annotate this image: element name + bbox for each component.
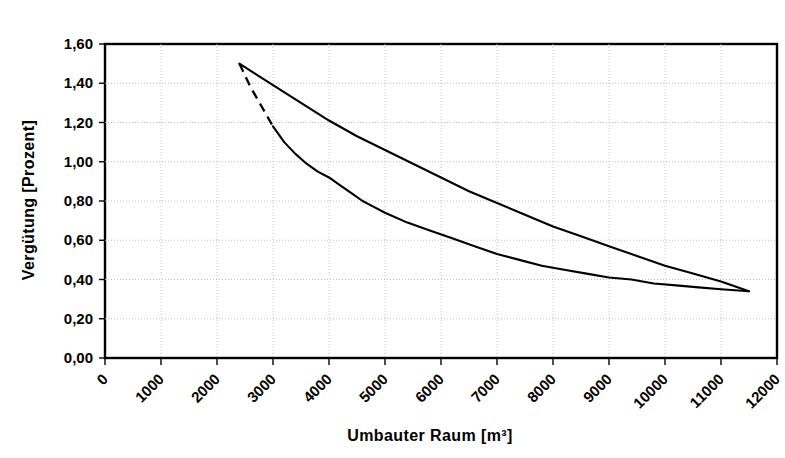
chart-container: 0,000,200,400,600,801,001,201,401,60 010… bbox=[0, 0, 785, 458]
x-tick-label: 8000 bbox=[524, 370, 560, 406]
x-axis-title: Umbauter Raum [m³] bbox=[347, 427, 512, 444]
y-axis-title: Vergütung [Prozent] bbox=[20, 120, 37, 280]
x-tick-label: 12000 bbox=[742, 370, 784, 412]
x-tick-label: 7000 bbox=[468, 370, 504, 406]
y-tick-label: 1,60 bbox=[64, 35, 93, 52]
y-tick-label: 1,20 bbox=[64, 114, 93, 131]
y-tick-label: 1,40 bbox=[64, 74, 93, 91]
x-tick-label: 3000 bbox=[244, 370, 280, 406]
x-tick-label: 2000 bbox=[188, 370, 224, 406]
x-axis-tick-labels: 0100020003000400050006000700080009000100… bbox=[93, 370, 783, 412]
x-tick-label: 11000 bbox=[686, 370, 727, 411]
y-tick-label: 0,40 bbox=[64, 271, 93, 288]
y-tick-label: 0,60 bbox=[64, 231, 93, 248]
x-tick-label: 9000 bbox=[580, 370, 616, 406]
x-tick-label: 1000 bbox=[132, 370, 168, 406]
y-tick-label: 0,20 bbox=[64, 310, 93, 327]
chart-canvas: 0,000,200,400,600,801,001,201,401,60 010… bbox=[0, 0, 785, 458]
x-tick-label: 10000 bbox=[630, 370, 672, 412]
x-tick-label: 5000 bbox=[356, 370, 392, 406]
y-tick-label: 0,00 bbox=[64, 349, 93, 366]
x-tick-label: 0 bbox=[93, 370, 111, 388]
x-tick-label: 4000 bbox=[300, 370, 336, 406]
y-tick-label: 1,00 bbox=[64, 153, 93, 170]
y-tick-label: 0,80 bbox=[64, 192, 93, 209]
x-tick-label: 6000 bbox=[412, 370, 448, 406]
y-axis-tick-labels: 0,000,200,400,600,801,001,201,401,60 bbox=[64, 35, 93, 366]
